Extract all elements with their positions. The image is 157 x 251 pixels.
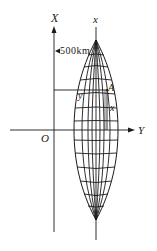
central-meridian-label: x (93, 14, 98, 25)
projection-diagram (0, 0, 157, 251)
x-axis-label: X (51, 12, 58, 24)
point-a-label: A (108, 83, 114, 93)
y-axis-label: Y (138, 125, 144, 136)
y-coordinate-label: y (78, 91, 82, 101)
offset-label: 500km (60, 46, 90, 56)
y-axis-arrow (128, 128, 135, 133)
x-coordinate-label: x (110, 103, 114, 113)
origin-label: O (41, 133, 49, 144)
x-axis-arrow (52, 26, 57, 33)
